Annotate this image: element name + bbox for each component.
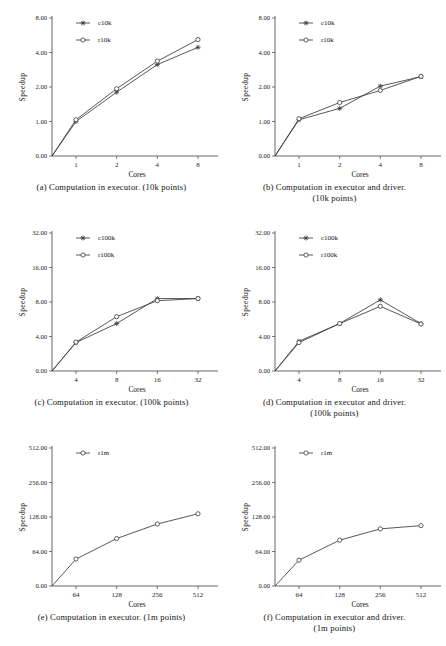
legend: r1m (76, 449, 110, 457)
caption-line: (d) Computation in executor and driver. (227, 397, 442, 408)
y-tick-label: 32.00 (255, 229, 271, 236)
x-axis-title: Cores (128, 600, 145, 609)
data-point-marker-star (114, 321, 119, 326)
data-point-marker-circle (196, 296, 200, 300)
series-line (52, 47, 198, 156)
data-point-marker-circle (155, 299, 159, 303)
plot-a: 0.001.002.004.008.001248CoresSpeedupc10k… (0, 0, 223, 182)
data-point-marker-circle (81, 38, 85, 42)
data-point-marker-circle (155, 522, 159, 526)
chart-svg-c: 0.004.008.0016.0032.00481632CoresSpeedup… (0, 215, 223, 397)
data-point-marker-circle (419, 74, 423, 78)
x-tick-label: 4 (156, 161, 160, 169)
series-line (52, 514, 198, 586)
plot-d: 0.004.008.0016.0032.00481632CoresSpeedup… (223, 215, 446, 397)
data-point-marker-star (337, 106, 342, 111)
legend: c100kr100k (299, 234, 339, 259)
data-point-marker-circle (378, 527, 382, 531)
subplot-cell-f: 0.0064.00128.00256.00512.0064128256512Co… (223, 430, 446, 646)
y-tick-label: 0.00 (258, 582, 270, 589)
subplot-cell-b: 0.001.002.004.008.001248CoresSpeedupc10k… (223, 0, 446, 215)
x-tick-label: 4 (379, 161, 383, 169)
series-r1m (52, 512, 200, 586)
data-point-marker-circle (338, 538, 342, 542)
y-tick-label: 64.00 (255, 548, 271, 555)
x-tick-label: 4 (74, 376, 78, 384)
y-axis-title: Speedup (241, 503, 250, 532)
data-point-marker-circle (338, 321, 342, 325)
data-point-marker-circle (81, 253, 85, 257)
x-axis-title: Cores (128, 170, 145, 179)
data-point-marker-circle (115, 536, 119, 540)
legend-label-r10k: r10k (321, 36, 334, 44)
y-tick-label: 128.00 (29, 513, 48, 520)
data-point-marker-circle (419, 322, 423, 326)
data-point-marker-circle (115, 315, 119, 319)
series-line (52, 299, 198, 371)
data-point-marker-circle (196, 37, 200, 41)
series-r100k (275, 304, 423, 371)
x-tick-label: 2 (338, 161, 342, 169)
y-tick-label: 0.00 (35, 367, 47, 374)
series-c100k (275, 297, 424, 371)
chart-svg-f: 0.0064.00128.00256.00512.0064128256512Co… (223, 430, 446, 612)
legend-label-c100k: c100k (321, 234, 339, 242)
x-tick-label: 16 (154, 376, 162, 384)
y-tick-label: 2.00 (258, 83, 270, 90)
data-point-marker-star (196, 45, 201, 50)
x-tick-label: 1 (297, 161, 301, 169)
caption-line: (e) Computation in executor. (1m points) (4, 612, 219, 623)
chart-svg-a: 0.001.002.004.008.001248CoresSpeedupc10k… (0, 0, 223, 182)
y-tick-label: 0.00 (35, 152, 47, 159)
y-tick-label: 4.00 (35, 49, 47, 56)
series-line (275, 76, 421, 156)
x-tick-label: 8 (338, 376, 342, 384)
data-point-marker-star (378, 297, 383, 302)
data-point-marker-circle (304, 253, 308, 257)
data-point-marker-star (81, 21, 86, 26)
series-line (275, 77, 421, 156)
data-point-marker-circle (297, 340, 301, 344)
legend-label-r100k: r100k (98, 251, 115, 259)
x-tick-label: 256 (375, 591, 386, 599)
data-point-marker-circle (155, 59, 159, 63)
legend-label-r100k: r100k (321, 251, 338, 259)
data-point-marker-circle (74, 557, 78, 561)
data-point-marker-circle (304, 451, 308, 455)
legend: c100kr100k (76, 234, 116, 259)
y-tick-label: 0.00 (258, 152, 270, 159)
caption-line: (10k points) (227, 193, 442, 204)
subplot-cell-e: 0.0064.00128.00256.00512.0064128256512Co… (0, 430, 223, 646)
caption-b: (b) Computation in executor and driver.(… (227, 182, 442, 204)
y-tick-label: 1.00 (258, 118, 270, 125)
legend-label-r1m: r1m (98, 449, 110, 457)
data-point-marker-circle (196, 512, 200, 516)
data-point-marker-circle (378, 304, 382, 308)
x-tick-label: 4 (297, 376, 301, 384)
caption-d: (d) Computation in executor and driver.(… (227, 397, 442, 419)
data-point-marker-star (378, 84, 383, 89)
legend: c10kr10k (299, 19, 335, 44)
legend: r1m (299, 449, 333, 457)
subplot-cell-d: 0.004.008.0016.0032.00481632CoresSpeedup… (223, 215, 446, 430)
x-axis-title: Cores (351, 600, 368, 609)
data-point-marker-circle (297, 558, 301, 562)
y-tick-label: 0.00 (258, 367, 270, 374)
y-axis-title: Speedup (241, 288, 250, 317)
data-point-marker-circle (338, 100, 342, 104)
plot-f: 0.0064.00128.00256.00512.0064128256512Co… (223, 430, 446, 612)
y-tick-label: 8.00 (258, 298, 270, 305)
data-point-marker-circle (115, 87, 119, 91)
caption-line: (100k points) (227, 408, 442, 419)
caption-line: (f) Computation in executor and driver. (227, 612, 442, 623)
subplot-cell-c: 0.004.008.0016.0032.00481632CoresSpeedup… (0, 215, 223, 430)
data-point-marker-star (304, 236, 309, 241)
series-r1m (275, 524, 423, 586)
chart-svg-e: 0.0064.00128.00256.00512.0064128256512Co… (0, 430, 223, 612)
speedup-figure: 0.001.002.004.008.001248CoresSpeedupc10k… (0, 0, 446, 646)
x-axis-title: Cores (128, 385, 145, 394)
caption-a: (a) Computation in executor. (10k points… (4, 182, 219, 193)
series-r10k (52, 37, 200, 156)
x-tick-label: 8 (196, 161, 200, 169)
y-tick-label: 2.00 (35, 83, 47, 90)
